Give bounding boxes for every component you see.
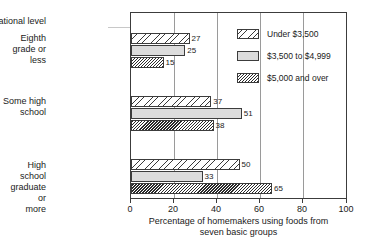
tick-label-80: 80 xyxy=(297,204,307,214)
bar-eighth-under-3500 xyxy=(131,33,190,44)
tick-label-0: 0 xyxy=(127,204,132,214)
bar-value: 27 xyxy=(190,33,201,44)
bar-value: 33 xyxy=(203,171,214,182)
plot-area: 27 25 15 37 51 38 50 33 65 Under $3,500 … xyxy=(130,12,347,199)
bar-value: 25 xyxy=(185,45,196,56)
bar-some-hs-5000-over xyxy=(131,120,214,131)
legend-swatch-icon xyxy=(237,29,259,39)
series-title: Educational level xyxy=(0,16,46,27)
legend-label: $3,500 to $4,999 xyxy=(267,51,331,61)
tick-mark-100 xyxy=(346,199,347,203)
bar-value: 37 xyxy=(211,96,222,107)
bar-value: 51 xyxy=(242,108,253,119)
legend-swatch-icon xyxy=(237,51,259,61)
bar-value: 15 xyxy=(164,57,175,68)
bar-value: 38 xyxy=(214,120,225,131)
category-label-high-school-graduate: High school graduate or more xyxy=(0,160,46,215)
bar-some-hs-under-3500 xyxy=(131,96,211,107)
legend-swatch-icon xyxy=(237,73,259,83)
tick-mark-40 xyxy=(216,199,217,203)
bar-value: 50 xyxy=(240,159,251,170)
legend-label: Under $3,500 xyxy=(267,29,319,39)
tick-mark-60 xyxy=(259,199,260,203)
bar-hs-grad-under-3500 xyxy=(131,159,240,170)
bar-chart: Educational level Eighth grade or less S… xyxy=(0,0,390,247)
bar-hs-grad-3500-4999 xyxy=(131,171,203,182)
tick-mark-80 xyxy=(302,199,303,203)
tick-label-20: 20 xyxy=(168,204,178,214)
legend: Under $3,500 $3,500 to $4,999 $5,000 and… xyxy=(237,28,345,94)
category-label-some-high-school: Some high school xyxy=(0,96,46,118)
bar-eighth-3500-4999 xyxy=(131,45,185,56)
tick-mark-20 xyxy=(173,199,174,203)
bar-value: 65 xyxy=(272,183,283,194)
legend-label: $5,000 and over xyxy=(267,73,328,83)
x-axis-title: Percentage of homemakers using foods fro… xyxy=(130,216,347,238)
tick-mark-0 xyxy=(130,199,131,203)
legend-item-under-3500: Under $3,500 xyxy=(237,28,345,40)
category-label-eighth-grade: Eighth grade or less xyxy=(0,33,46,66)
tick-label-40: 40 xyxy=(211,204,221,214)
tick-label-100: 100 xyxy=(338,204,353,214)
bar-eighth-5000-over xyxy=(131,57,164,68)
tick-label-60: 60 xyxy=(254,204,264,214)
bar-hs-grad-5000-over xyxy=(131,183,272,194)
bar-some-hs-3500-4999 xyxy=(131,108,242,119)
legend-item-3500-to-4999: $3,500 to $4,999 xyxy=(237,50,345,62)
legend-item-5000-and-over: $5,000 and over xyxy=(237,72,345,84)
